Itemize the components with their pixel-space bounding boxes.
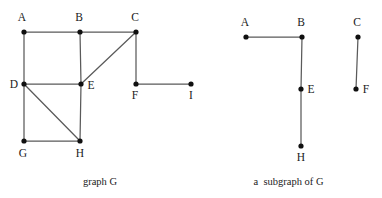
vertex-label-E: E: [87, 79, 94, 91]
graph-vertex-H: [298, 143, 303, 148]
graph-edge-E-H: [80, 84, 81, 141]
vertex-label-F: F: [132, 89, 138, 101]
subgraph-g-edges: [246, 37, 358, 146]
graph-vertex-A: [21, 29, 26, 34]
vertex-label-G: G: [19, 147, 27, 159]
graph-figure-canvas: ABCDEFIGH ABCEFH: [0, 0, 382, 198]
graph-edge-B-E: [80, 32, 81, 84]
vertex-label-C: C: [353, 16, 361, 28]
graph-vertex-C: [355, 34, 360, 39]
graph-vertex-I: [188, 81, 193, 86]
subgraph-g-vertex-labels: ABCEFH: [241, 16, 369, 163]
graph-vertex-B: [299, 34, 304, 39]
graph-edge-B-E: [301, 37, 302, 89]
graph-vertex-E: [298, 86, 303, 91]
vertex-label-D: D: [10, 78, 18, 90]
vertex-label-A: A: [18, 11, 27, 23]
graph-edge-D-H: [24, 84, 80, 141]
graph-g-group: ABCDEFIGH: [10, 11, 194, 159]
graph-g-edges: [24, 32, 191, 141]
vertex-label-F: F: [363, 83, 369, 95]
vertex-label-B: B: [297, 16, 305, 28]
vertex-label-H: H: [297, 151, 305, 163]
graph-vertex-C: [133, 29, 138, 34]
graph-edge-C-E: [81, 32, 136, 84]
graph-edge-C-F: [356, 37, 358, 89]
graph-vertex-H: [77, 138, 82, 143]
graph-g-caption: graph G: [0, 176, 200, 187]
vertex-label-C: C: [131, 11, 139, 23]
vertex-label-A: A: [241, 16, 250, 28]
subgraph-g-caption: a subgraph of G: [195, 176, 382, 187]
figure-root: ABCDEFIGH ABCEFH graph G a subgraph of G: [0, 0, 382, 198]
graph-g-vertices: [21, 29, 193, 143]
vertex-label-E: E: [307, 83, 314, 95]
vertex-label-B: B: [75, 11, 83, 23]
graph-vertex-B: [77, 29, 82, 34]
graph-vertex-D: [21, 81, 26, 86]
graph-g-vertex-labels: ABCDEFIGH: [10, 11, 193, 159]
subgraph-g-group: ABCEFH: [241, 16, 369, 163]
graph-vertex-F: [133, 81, 138, 86]
vertex-label-I: I: [189, 89, 193, 101]
graph-vertex-G: [21, 138, 26, 143]
vertex-label-H: H: [76, 147, 84, 159]
graph-vertex-A: [243, 34, 248, 39]
graph-vertex-E: [78, 81, 83, 86]
graph-vertex-F: [353, 86, 358, 91]
